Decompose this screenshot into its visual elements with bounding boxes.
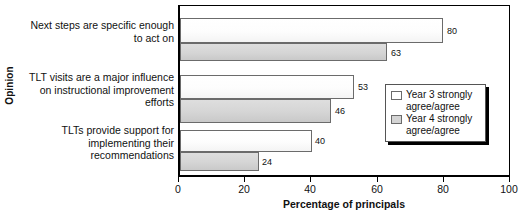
x-tick-0 (178, 177, 179, 182)
category-label-1-line1: Next steps are specific enough (16, 19, 174, 32)
bar-value-group3-year3: 40 (315, 136, 325, 146)
legend-label-year4-line2: agree/agree (406, 125, 460, 136)
x-tick-label-0: 0 (158, 183, 198, 195)
bar-value-group1-year3: 80 (447, 26, 457, 36)
category-label-3-line3: recommendations (16, 149, 174, 162)
x-tick-label-20: 20 (224, 183, 264, 195)
legend-swatch-year4-icon (391, 115, 402, 124)
bar-group2-year3 (180, 75, 354, 99)
bar-chart: Opinion Next steps are specific enough t… (0, 0, 524, 216)
x-tick-label-80: 80 (423, 183, 463, 195)
x-tick-100 (509, 177, 510, 182)
x-tick-40 (310, 177, 311, 182)
y-axis-title: Opinion (4, 51, 15, 121)
legend-entry-year3: Year 3 strongly agree/agree (391, 89, 481, 112)
bar-group3-year3 (180, 130, 312, 152)
category-label-2-line1: TLT visits are a major influence (16, 71, 174, 84)
bar-value-group3-year4: 24 (262, 157, 272, 167)
category-label-1: Next steps are specific enough to act on (16, 19, 178, 44)
x-tick-label-60: 60 (357, 183, 397, 195)
bar-group2-year4 (180, 99, 331, 123)
legend: Year 3 strongly agree/agree Year 4 stron… (385, 84, 486, 142)
legend-label-year4-line1: Year 4 strongly (406, 113, 472, 124)
legend-label-year3-line2: agree/agree (406, 101, 460, 112)
x-tick-label-40: 40 (290, 183, 330, 195)
category-label-1-line2: to act on (16, 32, 174, 45)
x-tick-label-100: 100 (489, 183, 524, 195)
bar-value-group2-year4: 46 (335, 106, 345, 116)
bar-value-group1-year4: 63 (391, 48, 401, 58)
bar-group1-year3 (180, 18, 443, 43)
category-label-2-line2: on instructional improvement (16, 84, 174, 97)
category-label-2-line3: efforts (16, 96, 174, 109)
bar-group1-year4 (180, 43, 387, 61)
legend-entry-year4: Year 4 strongly agree/agree (391, 113, 481, 136)
legend-swatch-year3-icon (391, 91, 402, 100)
x-tick-60 (377, 177, 378, 182)
category-label-3-line1: TLTs provide support for (16, 124, 174, 137)
legend-label-year3-line1: Year 3 strongly (406, 89, 472, 100)
bar-value-group2-year3: 53 (358, 82, 368, 92)
legend-label-year4: Year 4 strongly agree/agree (406, 113, 472, 136)
x-axis-title: Percentage of principals (178, 198, 510, 210)
x-tick-80 (443, 177, 444, 182)
category-label-2: TLT visits are a major influence on inst… (16, 71, 178, 109)
category-label-3: TLTs provide support for implementing th… (16, 124, 178, 162)
legend-label-year3: Year 3 strongly agree/agree (406, 89, 472, 112)
bar-group3-year4 (180, 152, 259, 171)
category-label-3-line2: implementing their (16, 137, 174, 150)
x-tick-20 (244, 177, 245, 182)
